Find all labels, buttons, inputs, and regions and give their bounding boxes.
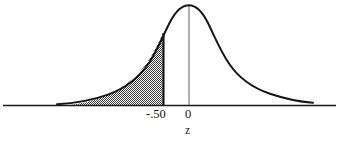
normal-distribution-figure: -.50 0 z	[0, 0, 341, 147]
normal-curve-plot	[0, 0, 341, 147]
tick-label-neg-half: -.50	[146, 107, 166, 122]
x-axis-label: z	[185, 124, 190, 136]
bell-curve-outline	[57, 5, 313, 104]
tick-label-zero: 0	[185, 107, 191, 122]
